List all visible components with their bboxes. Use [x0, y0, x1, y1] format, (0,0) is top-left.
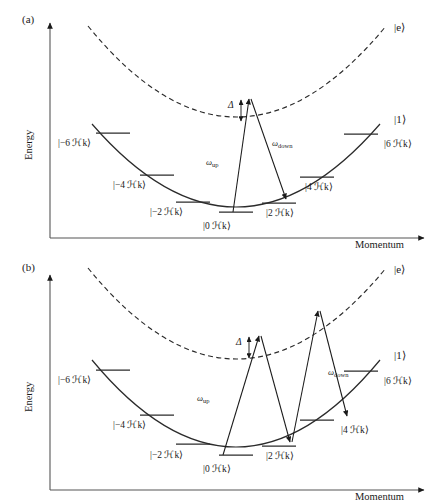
panel-a-ket-m6: |−6 ℋk⟩	[58, 139, 91, 149]
omega-down-arrow-1-b	[261, 336, 290, 442]
panel-a-tag: (a)	[22, 14, 34, 25]
panel-b: (b) Energy Momentum |e⟩ |1⟩ Δ ωup ωdown …	[0, 252, 438, 504]
panel-b-ket-p6: |6 ℋk⟩	[384, 377, 412, 387]
panel-a-ground-state-label: |1⟩	[394, 114, 406, 125]
momentum-level-ticks-a	[96, 133, 378, 212]
panel-a-graphics	[0, 0, 438, 252]
panel-b-excited-state-label: |e⟩	[394, 264, 405, 275]
panel-b-ket-p4: |4 ℋk⟩	[341, 426, 369, 436]
panel-b-axes	[50, 275, 424, 490]
panel-a-ket-m2: |−2 ℋk⟩	[150, 208, 183, 218]
panel-a-ket-p0: |0 ℋk⟩	[203, 222, 231, 232]
panel-a-ket-p2: |2 ℋk⟩	[266, 209, 294, 219]
panel-a-omega-up-label: ωup	[206, 158, 219, 167]
excited-state-parabola-a	[88, 26, 386, 117]
panel-b-ket-m6: |−6 ℋk⟩	[58, 376, 91, 386]
panel-b-y-axis-label: Energy	[24, 382, 35, 412]
panel-b-ground-state-label: |1⟩	[394, 350, 406, 361]
panel-a-x-axis-label: Momentum	[355, 240, 404, 251]
panel-a-ket-m4: |−4 ℋk⟩	[113, 181, 146, 191]
panel-b-ket-p0: |0 ℋk⟩	[203, 465, 231, 475]
panel-a: (a) Energy Momentum |e⟩ |1⟩ Δ ωup ωdown …	[0, 0, 438, 252]
panel-b-ket-m2: |−2 ℋk⟩	[150, 451, 183, 461]
figure-root: (a) Energy Momentum |e⟩ |1⟩ Δ ωup ωdown …	[0, 0, 438, 504]
panel-a-excited-state-label: |e⟩	[394, 22, 405, 33]
omega-up-subscript: up	[212, 161, 219, 168]
panel-a-y-axis-label: Energy	[24, 130, 35, 160]
panel-b-tag: (b)	[22, 262, 35, 273]
panel-a-axes	[50, 23, 424, 238]
panel-a-detuning-label: Δ	[228, 101, 234, 111]
omega-down-arrow-a	[251, 99, 286, 199]
omega-down-subscript: down	[278, 142, 292, 149]
omega-down-arrow-b	[320, 311, 347, 416]
omega-down-subscript: down	[334, 371, 348, 378]
momentum-level-ticks-b	[96, 370, 378, 455]
panel-b-detuning-label: Δ	[236, 338, 242, 348]
panel-b-ket-p2: |2 ℋk⟩	[266, 452, 294, 462]
omega-up-arrow-b	[223, 336, 259, 455]
panel-b-omega-up-label: ωup	[197, 394, 210, 403]
transition-arrows-b	[223, 311, 347, 455]
panel-a-omega-down-label: ωdown	[272, 139, 292, 148]
panel-b-x-axis-label: Momentum	[355, 492, 404, 503]
omega-up-arrow-2-b	[292, 311, 318, 442]
panel-b-omega-down-label: ωdown	[328, 368, 348, 377]
panel-b-ket-m4: |−4 ℋk⟩	[113, 421, 146, 431]
omega-up-subscript: up	[203, 397, 210, 404]
panel-a-ket-p4: |4 ℋk⟩	[305, 183, 333, 193]
panel-a-ket-p6: |6 ℋk⟩	[384, 140, 412, 150]
